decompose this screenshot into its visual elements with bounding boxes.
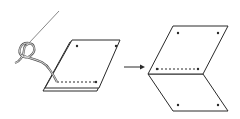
sewing-diagram	[0, 0, 240, 119]
marker-dot	[115, 45, 117, 47]
marker-dot	[76, 45, 78, 47]
bottom-panel	[148, 74, 228, 111]
needle-icon	[29, 11, 59, 43]
marker-dot	[95, 81, 97, 83]
arrow-right-icon	[124, 65, 145, 70]
marker-dot	[217, 104, 219, 106]
diagram-canvas	[0, 0, 240, 119]
step-2-opened-fabric	[148, 26, 228, 111]
step-1-stacked-fabric	[43, 40, 120, 91]
needle-and-thread	[15, 11, 59, 82]
marker-dot	[197, 68, 199, 70]
top-panel	[148, 26, 228, 74]
marker-dot	[177, 104, 179, 106]
marker-dot	[217, 32, 219, 34]
marker-dot	[156, 68, 158, 70]
marker-dot	[177, 32, 179, 34]
